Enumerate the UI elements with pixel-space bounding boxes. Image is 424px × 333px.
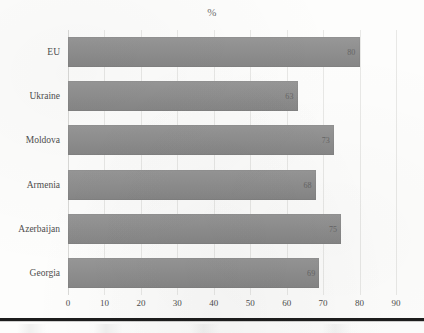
bar-ukraine[interactable]: 63 [68,81,298,111]
page-bottom-rule-shadow [0,321,424,322]
bar-value-label: 73 [322,136,330,145]
bar-value-label: 63 [285,92,293,101]
x-tick-label-40: 40 [209,298,218,308]
page-bottom-smudge [0,324,424,333]
chart-title: % [0,6,424,18]
bar-row: 73 [68,125,396,155]
category-label-armenia: Armenia [27,180,60,190]
x-tick-label-10: 10 [100,298,109,308]
chart-page: % EUUkraineMoldovaArmeniaAzerbaijanGeorg… [0,0,424,333]
category-label-eu: EU [47,47,60,57]
category-axis: EUUkraineMoldovaArmeniaAzerbaijanGeorgia [0,30,64,295]
bar-row: 69 [68,258,396,288]
gridline-80 [360,30,361,295]
gridline-70 [323,30,324,295]
bar-row: 63 [68,81,396,111]
bar-row: 68 [68,170,396,200]
category-label-georgia: Georgia [30,268,60,278]
bar-azerbaijan[interactable]: 75 [68,214,341,244]
bar-value-label: 69 [307,268,315,277]
plot-area: 806373687569 [68,30,396,295]
bar-row: 80 [68,37,396,67]
x-tick-label-30: 30 [173,298,182,308]
gridline-20 [141,30,142,295]
bar-row: 75 [68,214,396,244]
category-label-moldova: Moldova [26,135,60,145]
gridline-50 [250,30,251,295]
bar-armenia[interactable]: 68 [68,170,316,200]
bar-georgia[interactable]: 69 [68,258,319,288]
bar-moldova[interactable]: 73 [68,125,334,155]
bar-value-label: 80 [347,48,355,57]
bar-value-label: 68 [303,180,311,189]
x-axis: 0102030405060708090 [0,298,424,314]
x-tick-label-80: 80 [355,298,364,308]
bar-value-label: 75 [329,224,337,233]
gridline-40 [214,30,215,295]
gridline-30 [177,30,178,295]
category-label-azerbaijan: Azerbaijan [18,224,60,234]
x-tick-label-20: 20 [136,298,145,308]
x-tick-label-70: 70 [319,298,328,308]
x-tick-label-50: 50 [246,298,255,308]
category-label-ukraine: Ukraine [29,91,60,101]
gridline-10 [104,30,105,295]
gridline-90 [396,30,397,295]
x-tick-label-60: 60 [282,298,291,308]
gridline-60 [287,30,288,295]
x-tick-label-90: 90 [392,298,401,308]
x-tick-label-0: 0 [66,298,71,308]
bar-eu[interactable]: 80 [68,37,360,67]
gridline-0 [68,30,69,295]
